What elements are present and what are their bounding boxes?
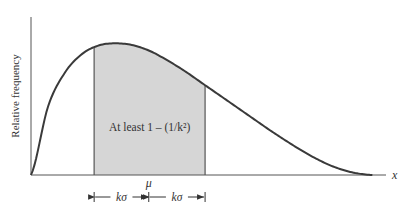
mu-label: μ [145,176,152,190]
chart: Relative frequency x At least 1 – (1/k²)… [0,0,416,217]
k-sigma-left-label: kσ [116,191,128,203]
y-axis-label: Relative frequency [9,54,21,138]
x-axis-label: x [391,168,398,182]
shaded-region-label: At least 1 – (1/k²) [109,121,191,134]
shaded-region [94,43,205,175]
k-sigma-right-label: kσ [172,191,184,203]
interval-arrows: kσ kσ [94,191,205,203]
